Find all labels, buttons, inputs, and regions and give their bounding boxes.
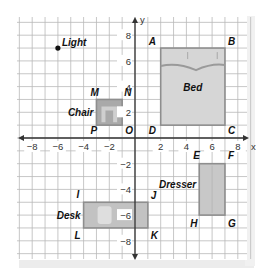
chair-label: Chair (68, 107, 95, 118)
vertex-label-j: J (151, 190, 157, 201)
vertex-label-e: E (193, 150, 200, 161)
vertex-label-k: K (151, 230, 159, 241)
x-tick-label: 4 (184, 141, 189, 152)
x-tick-label: 6 (209, 141, 214, 152)
vertex-label-g: G (228, 218, 236, 229)
furniture-dresser (199, 164, 225, 215)
y-axis-label: y (140, 14, 145, 25)
light-label: Light (62, 37, 87, 48)
vertex-label-i: I (77, 189, 80, 200)
y-tick-label: 6 (126, 56, 131, 67)
coordinate-grid-diagram: xy −8−6−4−224688642−2−4−6−8 LightABCDMNO… (0, 0, 265, 276)
vertex-label-l: L (75, 230, 81, 241)
y-tick-label: −8 (120, 236, 131, 247)
furniture-desk (84, 202, 148, 228)
y-tick-label: 2 (126, 107, 131, 118)
vertex-label-c: C (228, 125, 236, 136)
vertex-label-d: D (149, 125, 156, 136)
light-point (55, 45, 60, 50)
y-tick-label: −4 (120, 184, 131, 195)
bed-label: Bed (183, 82, 203, 93)
dresser-label: Dresser (159, 179, 197, 190)
grid-plot: xy −8−6−4−224688642−2−4−6−8 LightABCDMNO… (0, 0, 265, 276)
y-tick-label: −6 (120, 210, 131, 221)
x-tick-label: 8 (235, 141, 240, 152)
vertex-label-f: F (228, 150, 235, 161)
desk-rect (84, 202, 148, 228)
x-axis-label: x (251, 141, 256, 152)
vertex-label-h: H (190, 218, 198, 229)
desk-chair-shape (98, 206, 112, 224)
vertex-label-o: O (125, 125, 133, 136)
y-tick-label: −2 (120, 159, 131, 170)
vertex-label-n: N (124, 87, 132, 98)
x-tick-label: 2 (158, 141, 163, 152)
desk-label: Desk (57, 210, 81, 221)
x-tick-label: −8 (27, 141, 38, 152)
vertex-label-b: B (228, 36, 235, 47)
x-tick-label: −4 (78, 141, 89, 152)
x-tick-label: −6 (52, 141, 63, 152)
vertex-label-p: P (90, 125, 97, 136)
x-tick-label: −2 (104, 141, 115, 152)
y-tick-label: 8 (126, 30, 131, 41)
vertex-label-a: A (148, 36, 156, 47)
vertex-label-m: M (90, 87, 99, 98)
